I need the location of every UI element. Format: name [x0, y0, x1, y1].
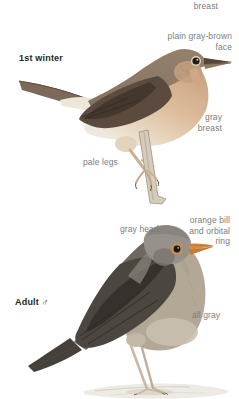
annotation-gray-head: gray head [120, 224, 159, 235]
annotation-breast-partial: breast [194, 1, 218, 12]
field-guide-plate: breast plain gray-brown face 1st winter … [0, 0, 239, 399]
bird-bill [204, 58, 233, 69]
plumage-title-adult-male: Adult ♂ [15, 297, 49, 307]
bird-tail [28, 338, 82, 372]
plumage-title-first-winter: 1st winter [19, 53, 63, 63]
annotation-pale-legs: pale legs [83, 157, 118, 168]
bird-eye [191, 56, 201, 66]
annotation-orange-bill: orange bill and orbital ring [182, 215, 230, 247]
annotation-all-gray: all gray [192, 310, 220, 321]
annotation-face: plain gray-brown face [160, 31, 232, 52]
annotation-gray-breast: gray breast [182, 112, 222, 133]
